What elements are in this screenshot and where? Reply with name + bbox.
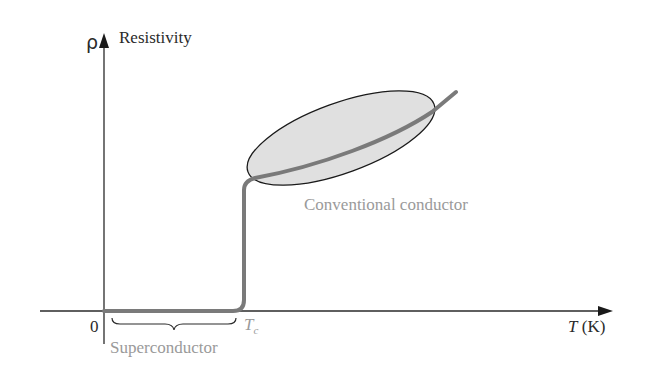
- superconductor-brace: [112, 318, 236, 330]
- y-axis-symbol: ρ: [86, 33, 98, 52]
- critical-temperature-label: Tc: [244, 316, 258, 336]
- superconductor-label: Superconductor: [110, 339, 218, 356]
- x-axis-label: T (K): [568, 318, 605, 335]
- x-axis-arrow-icon: [598, 306, 613, 316]
- conventional-conductor-label: Conventional conductor: [304, 196, 468, 213]
- x-axis-symbol: T: [568, 317, 577, 336]
- origin-label: 0: [90, 318, 99, 335]
- conventional-region-ellipse: [236, 71, 446, 204]
- tc-subscript: c: [253, 324, 258, 336]
- x-axis-unit: (K): [582, 317, 606, 336]
- y-axis-arrow-icon: [99, 33, 109, 48]
- y-axis-label: Resistivity: [119, 29, 192, 46]
